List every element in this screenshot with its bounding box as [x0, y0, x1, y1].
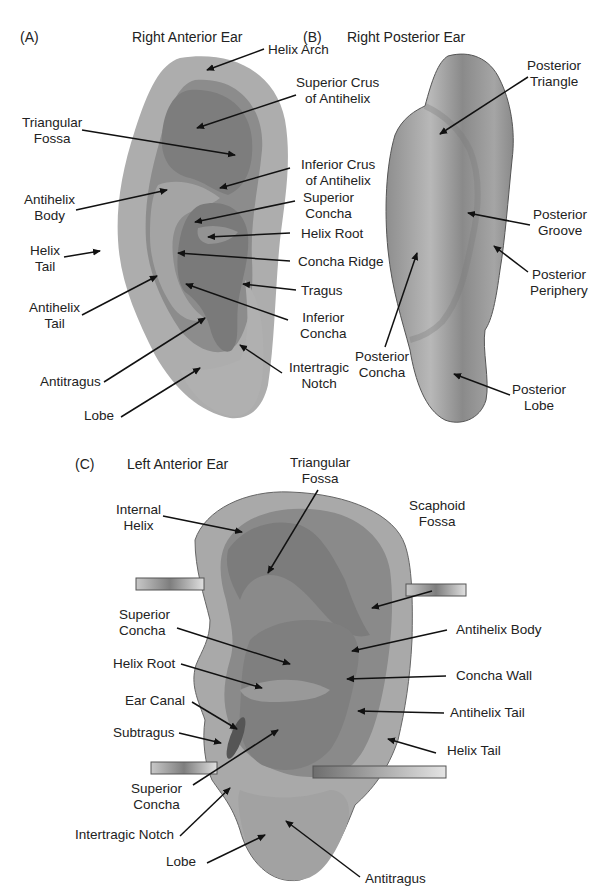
- panel-a-tag: (A): [20, 29, 39, 45]
- ear-c-shape: [136, 492, 466, 881]
- label-c-intertragic-notch: Intertragic Notch: [75, 827, 174, 843]
- label-c-subtragus: Subtragus: [113, 725, 175, 741]
- label-c-helix-root: Helix Root: [113, 656, 175, 672]
- label-c-scaphoid-fossa: ScaphoidFossa: [409, 498, 465, 530]
- panel-c-tag: (C): [75, 456, 94, 472]
- label-c-antihelix-tail: Antihelix Tail: [450, 705, 525, 721]
- label-c-lobe: Lobe: [166, 854, 196, 870]
- label-c-antihelix-body: Antihelix Body: [456, 622, 542, 638]
- label-helix-root: Helix Root: [301, 226, 363, 242]
- label-antitragus: Antitragus: [40, 374, 101, 390]
- ear-a-shape: [118, 56, 288, 418]
- label-posterior-concha: PosteriorConcha: [355, 349, 409, 381]
- label-c-ear-canal: Ear Canal: [125, 693, 185, 709]
- label-tragus: Tragus: [301, 283, 343, 299]
- panel-a-title: Right Anterior Ear: [132, 29, 243, 45]
- label-c-antitragus: Antitragus: [365, 871, 426, 887]
- label-intertragic-notch: IntertragicNotch: [289, 360, 349, 392]
- label-superior-crus-of-antihelix: Superior Crusof Antihelix: [296, 75, 379, 107]
- label-antihelix-body: AntihelixBody: [24, 192, 75, 224]
- label-posterior-triangle: PosteriorTriangle: [527, 58, 581, 90]
- label-superior-concha: SuperiorConcha: [303, 190, 354, 222]
- label-posterior-groove: PosteriorGroove: [533, 207, 587, 239]
- label-c-triangular-fossa: TriangularFossa: [290, 455, 350, 487]
- label-c-helix-tail: Helix Tail: [447, 743, 501, 759]
- panel-b-tag: (B): [303, 29, 322, 45]
- label-concha-ridge: Concha Ridge: [298, 254, 384, 270]
- label-c-superior-concha-lower: SuperiorConcha: [131, 781, 182, 813]
- label-c-internal-helix: InternalHelix: [116, 502, 161, 534]
- label-inferior-crus-of-antihelix: Inferior Crusof Antihelix: [301, 157, 375, 189]
- label-triangular-fossa: TriangularFossa: [22, 115, 82, 147]
- label-posterior-lobe: PosteriorLobe: [512, 382, 566, 414]
- panel-b-title: Right Posterior Ear: [347, 29, 465, 45]
- label-antihelix-tail: AntihelixTail: [29, 300, 80, 332]
- label-c-superior-concha-upper: SuperiorConcha: [119, 607, 170, 639]
- label-c-concha-wall: Concha Wall: [456, 668, 532, 684]
- panel-c-title: Left Anterior Ear: [127, 456, 228, 472]
- label-lobe: Lobe: [84, 408, 114, 424]
- label-helix-tail: HelixTail: [30, 243, 60, 275]
- label-posterior-periphery: PosteriorPeriphery: [530, 267, 588, 299]
- ear-anatomy-figure: (A) Right Anterior Ear Helix Arch Superi…: [0, 0, 613, 887]
- label-inferior-concha: InferiorConcha: [300, 310, 347, 342]
- ear-illustrations: [0, 0, 613, 887]
